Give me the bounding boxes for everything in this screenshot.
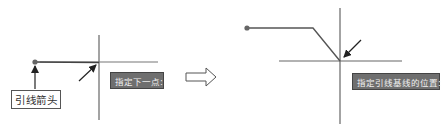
next-point-prompt-tooltip: 指定下一点: <box>110 72 164 89</box>
leader-start-dot-icon <box>244 25 249 30</box>
right-panel <box>244 8 402 124</box>
leader-diagram-canvas <box>0 0 447 129</box>
hollow-right-arrow-icon <box>186 68 216 86</box>
leader-arrow-label: 引线箭头 <box>11 90 61 109</box>
leader-start-dot-icon <box>32 59 37 64</box>
cursor-pointer-arrow-icon <box>79 65 96 81</box>
right-leader-line <box>247 28 340 61</box>
left-leader-line <box>35 62 99 63</box>
cursor-pointer-arrow-icon <box>344 40 361 57</box>
baseline-position-prompt-tooltip: 指定引线基线的位置: <box>352 73 440 90</box>
